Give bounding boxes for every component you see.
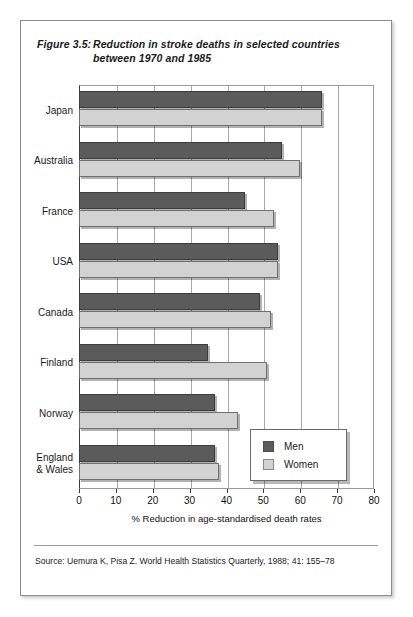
bar-group-finland xyxy=(79,338,374,389)
bar-women-australia xyxy=(79,160,300,177)
tick-label-30: 30 xyxy=(175,495,205,506)
category-label-line: Norway xyxy=(39,408,73,420)
bar-men-finland xyxy=(79,344,208,361)
bar-women-france xyxy=(79,210,274,227)
category-label-canada: Canada xyxy=(21,287,73,338)
bar-women-finland xyxy=(79,362,267,379)
category-axis-labels: JapanAustraliaFranceUSACanadaFinlandNorw… xyxy=(21,85,73,489)
category-label-line: & Wales xyxy=(36,464,73,476)
chart-legend: Men Women xyxy=(250,429,347,481)
figure-title: Reduction in stroke deaths in selected c… xyxy=(93,37,379,65)
tick-mark-50 xyxy=(263,489,264,493)
tick-mark-30 xyxy=(190,489,191,493)
tick-label-50: 50 xyxy=(248,495,278,506)
tick-mark-60 xyxy=(300,489,301,493)
category-label-line: Japan xyxy=(46,105,73,117)
bar-women-usa xyxy=(79,261,278,278)
source-note: Source: Uemura K, Pisa Z. World Health S… xyxy=(35,556,383,567)
figure-title-line-1: Reduction in stroke deaths in selected c… xyxy=(93,37,379,51)
tick-label-80: 80 xyxy=(359,495,389,506)
legend-swatch-women-icon xyxy=(263,459,274,470)
bar-men-australia xyxy=(79,142,282,159)
bar-group-usa xyxy=(79,237,374,288)
bar-men-england-wales xyxy=(79,445,215,462)
bar-group-france xyxy=(79,186,374,237)
figure-card: Figure 3.5: Reduction in stroke deaths i… xyxy=(20,20,392,596)
tick-label-0: 0 xyxy=(64,495,94,506)
legend-item-women: Women xyxy=(263,455,346,473)
legend-label-women: Women xyxy=(284,459,318,470)
category-label-usa: USA xyxy=(21,237,73,288)
category-label-japan: Japan xyxy=(21,85,73,136)
tick-mark-0 xyxy=(79,489,80,493)
bar-group-canada xyxy=(79,287,374,338)
bar-men-canada xyxy=(79,293,260,310)
tick-label-20: 20 xyxy=(138,495,168,506)
chart-plot-area: JapanAustraliaFranceUSACanadaFinlandNorw… xyxy=(21,79,393,539)
source-divider xyxy=(34,545,378,546)
category-label-line: USA xyxy=(52,256,73,268)
category-label-australia: Australia xyxy=(21,136,73,187)
tick-label-40: 40 xyxy=(212,495,242,506)
category-label-line: Australia xyxy=(34,155,73,167)
tick-label-10: 10 xyxy=(101,495,131,506)
category-label-norway: Norway xyxy=(21,388,73,439)
bar-group-japan xyxy=(79,85,374,136)
figure-title-line-2: between 1970 and 1985 xyxy=(93,51,379,65)
bar-women-canada xyxy=(79,311,271,328)
tick-label-60: 60 xyxy=(285,495,315,506)
bar-men-france xyxy=(79,192,245,209)
legend-item-men: Men xyxy=(263,437,346,455)
bar-women-norway xyxy=(79,412,238,429)
category-label-line: England xyxy=(36,452,73,464)
tick-mark-20 xyxy=(153,489,154,493)
category-label-line: Canada xyxy=(38,307,73,319)
category-label-france: France xyxy=(21,186,73,237)
x-axis-title: % Reduction in age-standardised death ra… xyxy=(79,513,374,524)
bar-men-norway xyxy=(79,394,215,411)
bar-women-japan xyxy=(79,109,322,126)
bar-men-usa xyxy=(79,243,278,260)
tick-mark-70 xyxy=(337,489,338,493)
legend-label-men: Men xyxy=(284,441,303,452)
category-label-line: Finland xyxy=(40,357,73,369)
bar-group-australia xyxy=(79,136,374,187)
tick-mark-80 xyxy=(374,489,375,493)
x-axis-tick-labels: 01020304050607080 xyxy=(21,495,393,509)
figure-number: Figure 3.5: xyxy=(37,37,93,51)
category-label-finland: Finland xyxy=(21,338,73,389)
legend-swatch-men-icon xyxy=(263,441,274,452)
tick-mark-40 xyxy=(227,489,228,493)
figure-title-block: Figure 3.5: Reduction in stroke deaths i… xyxy=(37,37,379,65)
category-label-england-wales: England& Wales xyxy=(21,439,73,490)
bar-women-england-wales xyxy=(79,463,219,480)
category-label-line: France xyxy=(42,206,73,218)
tick-mark-10 xyxy=(116,489,117,493)
bar-men-japan xyxy=(79,91,322,108)
tick-label-70: 70 xyxy=(322,495,352,506)
